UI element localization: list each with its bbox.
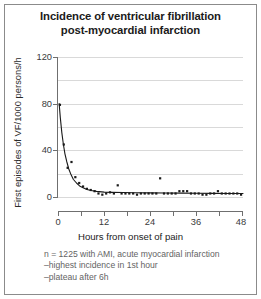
note-plateau: –plateau after 6h	[44, 272, 254, 283]
figure-container: Incidence of ventricular fibrillation po…	[0, 0, 261, 299]
data-point	[78, 182, 80, 184]
x-tick-label-36: 36	[191, 217, 201, 227]
data-point	[232, 192, 234, 194]
x-tick-12	[104, 211, 105, 216]
data-points	[59, 104, 242, 196]
data-point	[167, 192, 169, 194]
figure-notes: n = 1225 with AMI, acute myocardial infa…	[44, 249, 254, 283]
x-axis-title: Hours from onset of pain	[10, 231, 251, 242]
data-point	[178, 190, 180, 192]
data-point	[136, 194, 138, 196]
note-sample-size: n = 1225 with AMI, acute myocardial infa…	[44, 249, 254, 260]
plot-area	[58, 57, 243, 197]
x-tick-18	[127, 211, 128, 216]
data-point	[94, 190, 96, 192]
data-point	[63, 143, 65, 145]
data-point	[109, 191, 111, 193]
x-tick-0	[58, 211, 59, 216]
data-point	[86, 188, 88, 190]
data-point	[209, 192, 211, 194]
note-highest-incidence: –highest incidence in 1st hour	[44, 260, 254, 271]
data-point	[186, 190, 188, 192]
x-tick-6	[81, 211, 82, 216]
data-point	[228, 192, 230, 194]
x-tick-42	[219, 211, 220, 216]
data-point	[163, 192, 165, 194]
data-point	[151, 192, 153, 194]
data-point	[221, 192, 223, 194]
data-point	[74, 176, 76, 178]
data-point	[90, 189, 92, 191]
data-point	[105, 192, 107, 194]
x-tick-label-12: 12	[99, 217, 109, 227]
x-tick-label-24: 24	[145, 217, 155, 227]
data-point	[101, 194, 103, 196]
data-point	[128, 192, 130, 194]
data-point	[144, 192, 146, 194]
data-point	[213, 192, 215, 194]
data-series-plot	[58, 57, 243, 198]
x-tick-24	[150, 211, 151, 216]
data-point	[171, 192, 173, 194]
x-tick-36	[196, 211, 197, 216]
data-point	[159, 177, 161, 179]
data-point	[217, 190, 219, 192]
data-point	[240, 194, 242, 196]
data-point	[190, 192, 192, 194]
data-point	[205, 194, 207, 196]
data-point	[59, 104, 61, 106]
data-point	[201, 194, 203, 196]
data-point	[140, 192, 142, 194]
data-point	[198, 192, 200, 194]
fit-curve	[59, 104, 243, 194]
data-point	[174, 192, 176, 194]
x-tick-30	[173, 211, 174, 216]
data-point	[97, 192, 99, 194]
y-axis-title: First episodes of VF/1000 persons/h	[12, 53, 23, 213]
x-tick-48	[242, 211, 243, 216]
data-point	[225, 192, 227, 194]
y-tick-0	[53, 197, 57, 198]
data-point	[120, 192, 122, 194]
data-point	[194, 192, 196, 194]
data-point	[147, 192, 149, 194]
data-point	[155, 192, 157, 194]
data-point	[113, 192, 115, 194]
y-tick-40	[53, 150, 57, 151]
y-tick-120	[53, 57, 57, 58]
x-tick-label-0: 0	[55, 217, 60, 227]
data-point	[82, 185, 84, 187]
data-point	[124, 192, 126, 194]
data-point	[236, 192, 238, 194]
data-point	[67, 167, 69, 169]
chart-title-line-1: Incidence of ventricular fibrillation	[40, 10, 221, 22]
x-tick-label-48: 48	[236, 217, 246, 227]
y-axis-line	[57, 57, 58, 198]
data-point	[132, 192, 134, 194]
data-point	[70, 161, 72, 163]
y-tick-80	[53, 104, 57, 105]
data-point	[182, 190, 184, 192]
data-point	[117, 184, 119, 186]
